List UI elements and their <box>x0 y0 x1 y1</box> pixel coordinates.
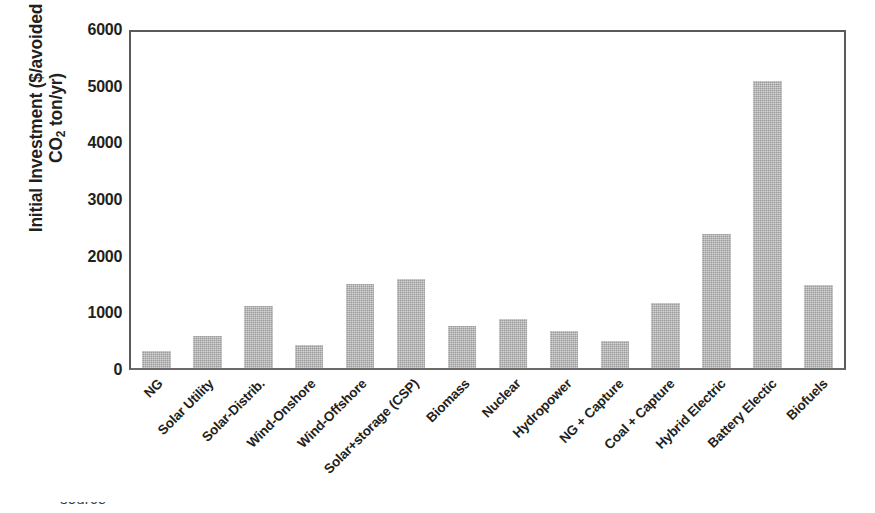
bar <box>346 284 375 368</box>
bar-slot <box>182 32 233 368</box>
bar-slot <box>233 32 284 368</box>
bar <box>499 319 528 368</box>
bar-slot <box>335 32 386 368</box>
bar <box>193 336 222 368</box>
bar-chart-figure: Initial Investment ($/avoided CO2 ton/yr… <box>0 0 875 513</box>
x-label-slot: Solar+storage (CSP) <box>385 372 436 482</box>
bar <box>753 81 782 368</box>
bar-slot <box>437 32 488 368</box>
y-axis-tick-label: 3000 <box>56 191 122 209</box>
caption-text: source <box>60 502 106 507</box>
y-axis-tick-labels: 0100020003000400050006000 <box>56 30 122 370</box>
bar-series <box>131 32 844 368</box>
bar <box>295 345 324 368</box>
x-label-slot: Biomass <box>436 372 487 482</box>
bar-slot <box>538 32 589 368</box>
bar-slot <box>386 32 437 368</box>
y-axis-tick-label: 4000 <box>56 134 122 152</box>
x-axis-category-label: NG <box>141 376 166 401</box>
cropped-caption-strip: source <box>0 502 875 513</box>
y-axis-tick-label: 0 <box>56 361 122 379</box>
bar-slot <box>284 32 335 368</box>
y-axis-title-line1: Initial Investment ($/avoided <box>26 4 46 233</box>
bar <box>702 234 731 368</box>
y-axis-tick-label: 6000 <box>56 21 122 39</box>
bar <box>804 285 833 368</box>
bar <box>550 331 579 368</box>
bar-slot <box>487 32 538 368</box>
bar-slot <box>131 32 182 368</box>
bar-slot <box>691 32 742 368</box>
bar <box>244 306 273 368</box>
y-axis-tick-label: 5000 <box>56 78 122 96</box>
bar <box>397 279 426 368</box>
plot-area <box>129 30 846 370</box>
bar <box>651 303 680 368</box>
x-label-slot: Biofuels <box>795 372 846 482</box>
bar-slot <box>640 32 691 368</box>
bar <box>601 341 630 368</box>
bar-slot <box>589 32 640 368</box>
bar <box>142 351 171 368</box>
bar-slot <box>793 32 844 368</box>
bar-slot <box>742 32 793 368</box>
y-axis-tick-label: 1000 <box>56 304 122 322</box>
x-axis-category-labels: NGSolar UtilitySolar-Distrib.Wind-Onshor… <box>129 372 846 482</box>
x-label-slot: Battery Electic <box>744 372 795 482</box>
y-axis-tick-label: 2000 <box>56 248 122 266</box>
bar <box>448 326 477 369</box>
